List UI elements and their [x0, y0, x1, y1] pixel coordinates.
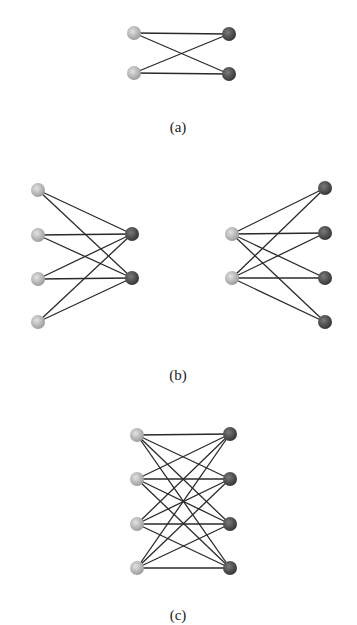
right-vertex — [318, 226, 332, 240]
panel-c: (c) — [130, 427, 237, 624]
left-vertex — [31, 228, 45, 242]
left-vertex — [31, 183, 45, 197]
panel-b: (b) — [31, 181, 332, 384]
left-vertex — [127, 66, 141, 80]
left-vertex — [130, 561, 144, 575]
left-vertex — [130, 472, 144, 486]
left-vertex — [225, 271, 239, 285]
left-vertex — [31, 272, 45, 286]
panel-caption-b: (b) — [169, 367, 187, 384]
left-vertex — [225, 227, 239, 241]
right-vertex — [223, 472, 237, 486]
edge — [232, 278, 325, 322]
right-vertex — [318, 315, 332, 329]
edge — [134, 33, 229, 34]
right-vertex — [125, 227, 139, 241]
panel-caption-a: (a) — [170, 119, 187, 136]
graph-k4-4 — [130, 427, 237, 575]
left-vertex — [31, 315, 45, 329]
graph-k2-2 — [127, 26, 236, 81]
right-vertex — [223, 561, 237, 575]
edge — [38, 234, 132, 235]
right-vertex — [223, 517, 237, 531]
edge — [38, 278, 132, 322]
left-vertex — [130, 517, 144, 531]
right-vertex — [222, 67, 236, 81]
panel-a: (a) — [127, 26, 236, 136]
edge — [232, 188, 325, 234]
right-vertex — [223, 427, 237, 441]
right-vertex — [125, 271, 139, 285]
graph-k4-2 — [31, 183, 139, 329]
bipartite-graphs-figure: (a) (b) (c) — [0, 0, 357, 625]
right-vertex — [222, 27, 236, 41]
graph-k2-4 — [225, 181, 332, 329]
right-vertex — [318, 181, 332, 195]
edge — [137, 434, 230, 435]
left-vertex — [130, 428, 144, 442]
edge — [38, 190, 132, 234]
edge — [134, 73, 229, 74]
right-vertex — [318, 271, 332, 285]
panel-caption-c: (c) — [170, 607, 187, 624]
left-vertex — [127, 26, 141, 40]
